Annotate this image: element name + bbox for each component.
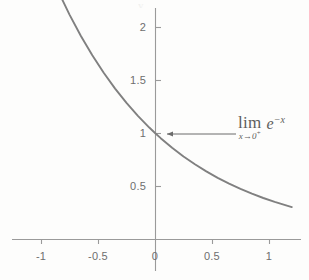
y-tick-label-0-5: 0.5 [108, 180, 146, 192]
lim-subscript: x→0+ [238, 130, 262, 141]
x-tick-label-1: 1 [249, 250, 289, 262]
x-tick-label-0-5: 0.5 [192, 250, 232, 262]
lim-subscript-sign: + [257, 129, 261, 137]
limit-expression: e−x [267, 114, 285, 133]
exponential-decay-curve [13, 0, 292, 207]
limit-operator-group: lim x→0+ [238, 114, 262, 141]
y-tick-label-2: 2 [108, 21, 146, 33]
expression-exponent: −x [274, 114, 285, 125]
x-tick-label-0: 0 [135, 250, 175, 262]
arrow-head [167, 132, 173, 137]
expression-base: e [267, 116, 274, 133]
limit-annotation: lim x→0+ e−x [238, 114, 285, 141]
y-tick-label-1-5: 1.5 [108, 74, 146, 86]
x-tick-label-neg1: -1 [21, 250, 61, 262]
lim-subscript-text: x→0 [239, 131, 257, 141]
figure-container: y 2 1.5 1 0.5 -1 -0.5 [0, 0, 309, 280]
x-tick-label-neg0-5: -0.5 [78, 250, 118, 262]
y-tick-label-1: 1 [108, 127, 146, 139]
annotation-arrow [167, 132, 236, 137]
